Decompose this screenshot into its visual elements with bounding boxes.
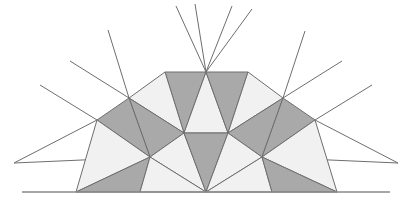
- figure-root: [0, 0, 408, 209]
- geometric-figure-svg: [0, 0, 408, 209]
